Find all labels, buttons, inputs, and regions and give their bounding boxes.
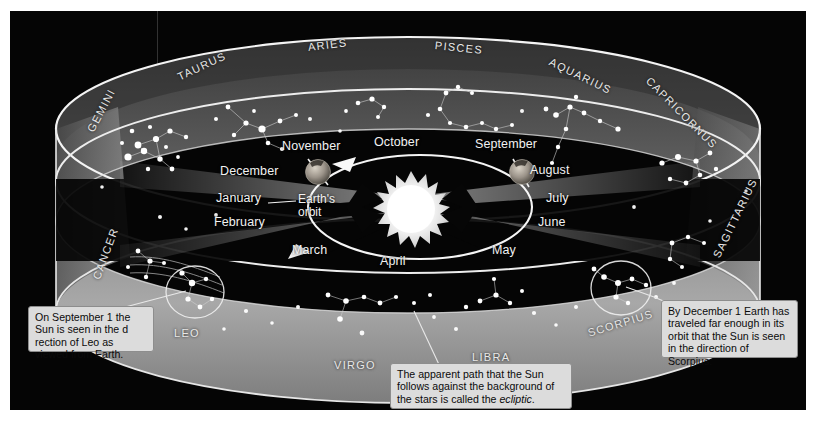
figure-plate: GEMINI TAURUS ARIES PISCES AQUARIUS CAPR… bbox=[10, 11, 806, 410]
caption-ecliptic-text-after: . bbox=[532, 393, 535, 405]
month-label-august: August bbox=[530, 163, 570, 177]
month-label-november: November bbox=[282, 139, 340, 153]
caption-scorpius: By December 1 Earth has traveled far eno… bbox=[661, 300, 798, 358]
earth-november bbox=[306, 159, 331, 185]
month-label-october: October bbox=[374, 135, 419, 149]
month-label-december: December bbox=[220, 164, 278, 178]
constellation-label-libra: LIBRA bbox=[472, 351, 510, 363]
month-label-march: March bbox=[292, 243, 327, 257]
constellation-label-leo: LEO bbox=[174, 327, 200, 339]
month-label-january: January bbox=[216, 191, 261, 205]
earth-orbit-label-line2: orbit bbox=[298, 206, 335, 219]
figure-page: GEMINI TAURUS ARIES PISCES AQUARIUS CAPR… bbox=[0, 0, 816, 427]
month-label-april: April bbox=[380, 254, 406, 268]
earth-orbit-label: Earth's orbit bbox=[298, 193, 335, 218]
constellation-libra bbox=[464, 277, 524, 309]
month-label-may: May bbox=[492, 243, 516, 257]
month-label-february: February bbox=[214, 215, 265, 229]
earth-orbit-label-line1: Earth's bbox=[298, 193, 335, 206]
caption-ecliptic-italic-term: ecliptic bbox=[499, 393, 531, 405]
month-label-july: July bbox=[546, 191, 569, 205]
month-label-september: September bbox=[475, 137, 537, 151]
month-label-june: June bbox=[538, 215, 566, 229]
caption-ecliptic: The apparent path that the Sun follows a… bbox=[390, 363, 572, 409]
caption-leo: On September 1 the Sun is seen in the d … bbox=[28, 306, 154, 352]
constellation-label-virgo: VIRGO bbox=[334, 359, 376, 371]
